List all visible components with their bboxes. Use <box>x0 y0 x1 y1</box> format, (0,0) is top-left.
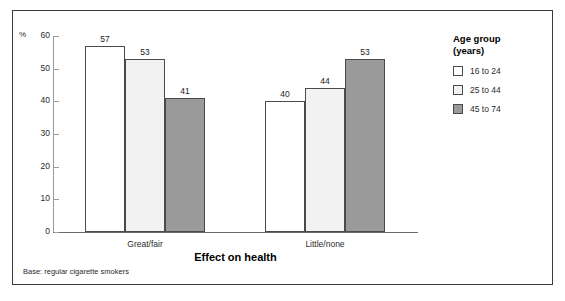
y-tick-mark <box>54 36 59 37</box>
legend-swatch-icon <box>453 85 463 95</box>
legend-title: Age group (years) <box>453 33 553 57</box>
bar-great-fair-25-to-44[interactable]: 53 <box>125 59 165 232</box>
legend-item-16-to-24[interactable]: 16 to 24 <box>453 66 553 76</box>
legend-item-label: 45 to 74 <box>470 104 501 114</box>
category-label-little-none: Little/none <box>265 239 385 249</box>
y-tick-label-30: 30 <box>41 128 50 139</box>
y-tick-label-60: 60 <box>41 30 50 41</box>
bar-value-label: 44 <box>320 76 329 86</box>
bar-value-label: 53 <box>360 47 369 57</box>
bar-great-fair-45-to-74[interactable]: 41 <box>165 98 205 232</box>
legend-swatch-icon <box>453 104 463 114</box>
y-tick-mark <box>54 101 59 102</box>
y-axis-unit-label: % <box>19 30 26 39</box>
bar-group-great-fair: 57 53 41 Great/fair <box>85 36 205 232</box>
x-axis-line <box>53 232 418 233</box>
y-tick-40: 40 <box>19 101 59 102</box>
bar-value-label: 53 <box>140 47 149 57</box>
y-tick-mark <box>54 232 59 233</box>
bar-little-none-25-to-44[interactable]: 44 <box>305 88 345 232</box>
y-tick-30: 30 <box>19 134 59 135</box>
plot-area: 60 50 40 30 20 10 0 57 <box>53 36 418 233</box>
bar-value-label: 41 <box>180 86 189 96</box>
bar-value-label: 57 <box>100 34 109 44</box>
y-tick-50: 50 <box>19 69 59 70</box>
y-tick-mark <box>54 199 59 200</box>
bar-little-none-16-to-24[interactable]: 40 <box>265 101 305 232</box>
y-tick-20: 20 <box>19 167 59 168</box>
legend-item-25-to-44[interactable]: 25 to 44 <box>453 85 553 95</box>
bar-group-little-none: 40 44 53 Little/none <box>265 36 385 232</box>
y-tick-mark <box>54 134 59 135</box>
legend: Age group (years) 16 to 24 25 to 44 45 t… <box>453 33 553 123</box>
bar-value-label: 40 <box>280 89 289 99</box>
legend-swatch-icon <box>453 66 463 76</box>
x-axis-title: Effect on health <box>53 251 418 263</box>
y-tick-10: 10 <box>19 199 59 200</box>
y-tick-0: 0 <box>19 232 59 233</box>
y-tick-label-10: 10 <box>41 193 50 204</box>
y-tick-label-40: 40 <box>41 95 50 106</box>
category-label-great-fair: Great/fair <box>85 239 205 249</box>
legend-item-label: 16 to 24 <box>470 66 501 76</box>
y-tick-label-20: 20 <box>41 161 50 172</box>
legend-item-45-to-74[interactable]: 45 to 74 <box>453 104 553 114</box>
legend-item-label: 25 to 44 <box>470 85 501 95</box>
chart-figure: 60 50 40 30 20 10 0 57 <box>12 10 553 285</box>
y-tick-label-50: 50 <box>41 63 50 74</box>
y-tick-label-0: 0 <box>45 226 50 237</box>
bar-great-fair-16-to-24[interactable]: 57 <box>85 46 125 232</box>
y-tick-mark <box>54 69 59 70</box>
footnote-base-note: Base: regular cigarette smokers <box>23 267 129 276</box>
bar-little-none-45-to-74[interactable]: 53 <box>345 59 385 232</box>
y-tick-mark <box>54 167 59 168</box>
